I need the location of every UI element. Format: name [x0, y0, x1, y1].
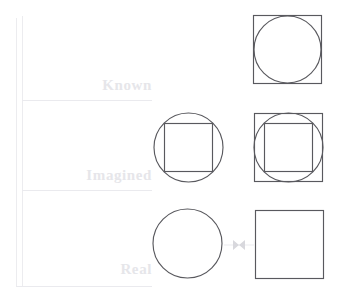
- circle-square-connector: [224, 238, 254, 252]
- inscribed-circle: [254, 16, 321, 83]
- imagined-middle-cell: [152, 110, 226, 186]
- real-right-cell: [253, 208, 325, 282]
- known-right-cell: [252, 14, 324, 86]
- row-label-imagined: Imagined: [0, 168, 152, 183]
- row-label-known: Known: [0, 78, 152, 93]
- imagined-right-cell: [252, 110, 326, 186]
- circle: [153, 209, 222, 278]
- bowtie-icon: [233, 240, 245, 250]
- inner-vertical-rule: [22, 16, 23, 286]
- figure-root: Known Imagined Real: [0, 0, 340, 302]
- divider-baseline: [16, 286, 152, 287]
- divider-imagined-real: [22, 190, 152, 191]
- inner-square: [265, 124, 313, 172]
- real-middle-cell: [151, 206, 225, 282]
- divider-known-imagined: [22, 100, 152, 101]
- inscribed-square: [165, 124, 213, 172]
- outer-vertical-rule: [16, 18, 17, 286]
- square: [256, 211, 324, 279]
- row-label-real: Real: [0, 262, 152, 277]
